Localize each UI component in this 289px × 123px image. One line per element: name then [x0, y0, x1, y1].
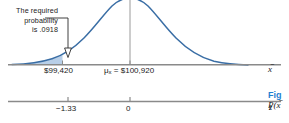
shaded-tail-region — [14, 55, 63, 65]
annotation-line-2: probability — [2, 16, 58, 26]
mean-value-label: μx = $100,920 — [104, 66, 154, 75]
annotation-line-1: The required — [2, 6, 58, 16]
xbar-axis-name: x̅ — [268, 64, 272, 74]
mean-label-rest: = $100,920 — [112, 66, 154, 75]
xbar-axis-name-text: x — [268, 64, 272, 74]
z-tick-label-center: 0 — [126, 104, 130, 113]
figure-caption-title: Fig — [268, 90, 289, 100]
z-tick-label-left: −1.33 — [56, 104, 76, 113]
xbar-tick-label-left: $99,420 — [44, 66, 73, 75]
required-probability-annotation: The required probability is .0918 — [2, 6, 58, 35]
figure-caption-body: P(x̅ — [268, 100, 289, 112]
normal-distribution-figure: The required probability is .0918 $99,42… — [0, 0, 289, 123]
caption-body-text: P(x — [268, 100, 281, 110]
annotation-line-3: is .0918 — [2, 25, 58, 35]
figure-caption: Fig P(x̅ — [268, 90, 289, 112]
